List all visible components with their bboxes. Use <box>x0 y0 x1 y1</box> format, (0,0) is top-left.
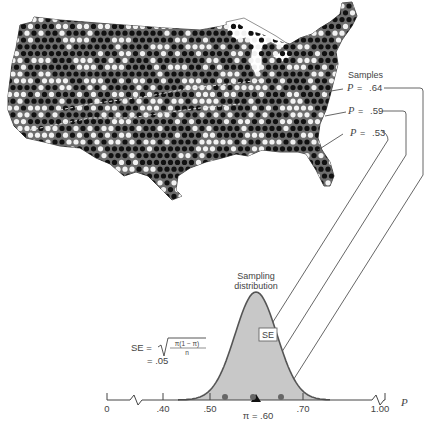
diagram-canvas: Samples P = .64 P = .59 P = .53 Sampling… <box>0 0 426 426</box>
svg-text:=: = <box>358 106 363 116</box>
sample-label-64: P = .64 <box>346 82 382 93</box>
formula-lhs: SE = <box>131 342 152 353</box>
mean-label: π = .60 <box>243 410 274 421</box>
svg-text:=: = <box>357 83 362 93</box>
formula-denominator: n <box>185 349 189 356</box>
samples-heading: Samples <box>348 70 384 80</box>
svg-text:P: P <box>347 105 355 116</box>
svg-text:SE: SE <box>262 330 274 340</box>
formula-numerator: π(1 − π) <box>175 340 199 348</box>
samples-legend: Samples P = .64 P = .59 P = .53 <box>346 70 385 138</box>
tick-40: .40 <box>156 403 169 414</box>
tick-70: .70 <box>296 403 309 414</box>
axis-variable-p: P <box>400 396 408 408</box>
distribution-title-line2: distribution <box>234 281 278 291</box>
tick-50: .50 <box>203 403 216 414</box>
svg-text:P: P <box>346 82 354 93</box>
sampling-distribution-curve <box>178 292 330 400</box>
sample-label-53: P = .53 <box>349 127 385 138</box>
formula-result: = .05 <box>147 355 168 366</box>
se-box: SE <box>259 328 277 341</box>
svg-text:=: = <box>360 128 365 138</box>
sample-label-59: P = .59 <box>347 105 383 116</box>
svg-text:.59: .59 <box>370 105 383 116</box>
sample-point-59 <box>250 394 256 400</box>
distribution-title-line1: Sampling <box>237 271 275 281</box>
svg-text:P: P <box>349 127 357 138</box>
us-population-map <box>3 2 369 206</box>
sample-point-64 <box>278 394 284 400</box>
tick-0: 0 <box>104 403 109 414</box>
svg-text:.64: .64 <box>369 82 382 93</box>
tick-100: 1.00 <box>371 403 390 414</box>
se-formula: SE = π(1 − π) n = .05 <box>131 338 206 366</box>
svg-text:.53: .53 <box>372 127 385 138</box>
sample-point-53 <box>222 394 228 400</box>
